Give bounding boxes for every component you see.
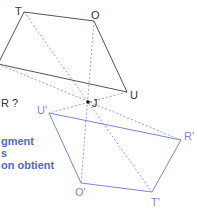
label-O: O bbox=[91, 9, 100, 21]
instruction-line-3: on obtient bbox=[1, 159, 54, 171]
label-T-prime: T' bbox=[151, 196, 160, 208]
center-point-J bbox=[86, 100, 90, 104]
label-U: U bbox=[130, 89, 138, 101]
question-fragment: R ? bbox=[1, 97, 18, 109]
label-O-prime: O' bbox=[75, 186, 86, 198]
label-J: J bbox=[92, 97, 98, 109]
quadrilateral-image bbox=[49, 113, 181, 192]
symmetry-figure: T O U J U' R' O' T' bbox=[0, 0, 197, 216]
instruction-line-1: gment bbox=[1, 135, 34, 147]
instruction-line-2: s bbox=[1, 147, 7, 159]
label-U-prime: U' bbox=[37, 104, 47, 116]
label-T: T bbox=[15, 5, 22, 17]
label-R-prime: R' bbox=[184, 130, 194, 142]
quadrilateral-TOUR bbox=[0, 12, 127, 92]
